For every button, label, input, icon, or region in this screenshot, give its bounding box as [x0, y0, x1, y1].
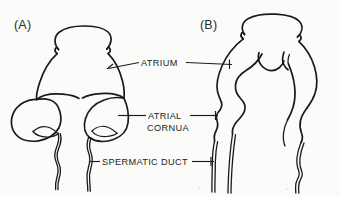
atrium-b-left-notch	[241, 33, 244, 39]
atrium-left-notch	[55, 48, 58, 54]
panel-label-a: (A)	[14, 18, 31, 32]
scan-fleck	[198, 186, 200, 189]
leader-atrium-left	[109, 63, 140, 69]
panel-b-outer-left-lower	[214, 103, 222, 142]
cornu-right-outline	[84, 98, 124, 138]
panel-b-right-duct-strand2	[299, 143, 304, 193]
spermatic-duct-a-right-strand2	[89, 138, 92, 191]
panel-b-central-tick	[288, 55, 290, 64]
panel-b-outer-left-flank	[217, 39, 243, 103]
atrium-body-left	[37, 54, 58, 100]
cornu-right-fold	[92, 126, 117, 133]
anatomical-figure: (A) (B) ATRIUM ATRIAL CORNUA SPERMATIC D…	[0, 0, 340, 197]
cornu-left-outline	[11, 99, 58, 141]
scan-fleck	[286, 188, 288, 190]
atrium-outline-b	[242, 14, 302, 37]
cornu-left-lower-edge	[37, 99, 61, 129]
panel-b-outer-right-flank	[299, 41, 317, 108]
atrium-outline-a	[55, 26, 111, 50]
callout-atrial-cornua-line2: CORNUA	[147, 123, 189, 133]
panel-b-inner-right-contour	[288, 64, 296, 120]
atrium-right-notch	[107, 47, 110, 53]
panel-b-outer-right-lower	[300, 108, 307, 143]
atrium-body-right	[108, 54, 124, 99]
panel-b-inner-midline	[232, 54, 262, 134]
panel-b-left-duct-strand2	[215, 142, 218, 193]
panel-b-left-duct-strand1	[212, 141, 215, 192]
callout-spermatic-duct: SPERMATIC DUCT	[102, 157, 188, 167]
scan-fleck	[62, 183, 64, 185]
atrium-b-right-notch	[298, 35, 301, 41]
callout-atrium: ATRIUM	[141, 58, 178, 68]
leader-atrium-right	[186, 63, 232, 65]
panel-b-central-v	[270, 61, 284, 71]
panel-b-inner-right-duct	[283, 120, 287, 146]
panel-label-b: (B)	[200, 18, 217, 32]
panel-b-drawing	[212, 14, 317, 193]
diagram-canvas: (A) (B) ATRIUM ATRIAL CORNUA SPERMATIC D…	[0, 0, 340, 197]
cornu-right-fold-lower	[92, 131, 117, 137]
callout-atrial-cornua-line1: ATRIAL	[148, 111, 182, 121]
panel-b-central-notch-left	[258, 53, 270, 71]
